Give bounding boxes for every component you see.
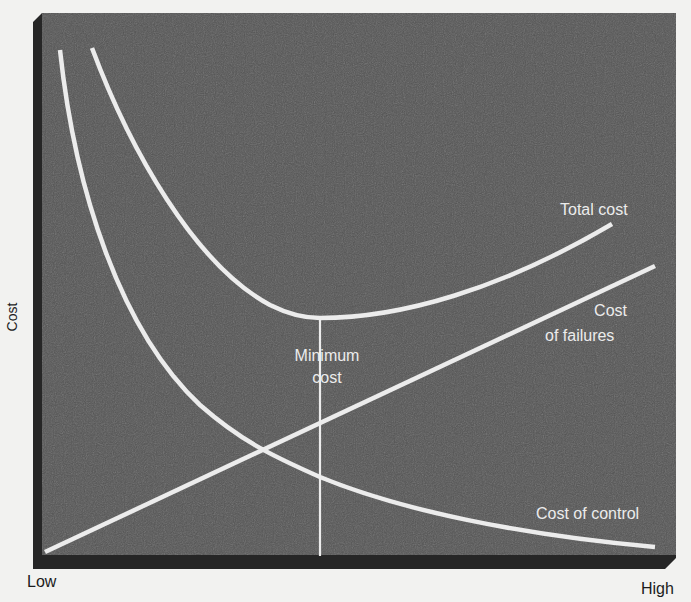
label-minimum-cost: Minimum cost — [285, 345, 369, 389]
y-axis-label: Cost — [4, 297, 20, 337]
label-cost-of-control: Cost of control — [536, 505, 639, 523]
x-axis-low-label: Low — [27, 573, 56, 591]
label-total-cost: Total cost — [560, 201, 628, 219]
x-axis-high-label: High — [641, 580, 674, 598]
label-minimum-cost-line1: Minimum — [285, 345, 369, 367]
label-minimum-cost-line2: cost — [285, 367, 369, 389]
label-cost-of-failures-line1: Cost — [583, 302, 627, 320]
plot-panel — [42, 13, 676, 555]
label-cost-of-failures: Cost — [583, 302, 627, 320]
label-cost-of-failures-2: of failures — [545, 327, 614, 345]
